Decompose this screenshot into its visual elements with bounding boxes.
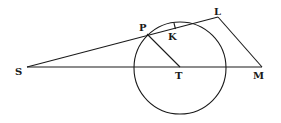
label-L: L xyxy=(214,6,221,17)
line-LM xyxy=(218,17,262,67)
label-K: K xyxy=(168,31,177,42)
geometry-figure: S P K L T M xyxy=(0,0,281,123)
label-P: P xyxy=(139,22,147,33)
label-T: T xyxy=(175,70,183,81)
label-S: S xyxy=(15,66,22,77)
label-M: M xyxy=(253,70,264,81)
line-SL xyxy=(27,17,218,67)
diagram-canvas: S P K L T M xyxy=(0,0,281,123)
